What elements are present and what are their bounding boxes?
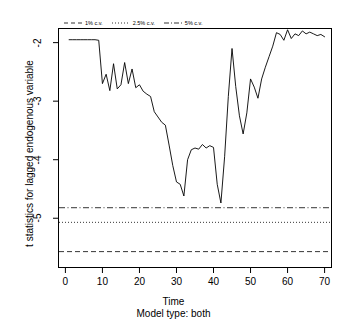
y-tick-label: -5 bbox=[33, 208, 43, 228]
legend-item-1pct: 1% c.v. bbox=[64, 20, 103, 26]
legend-label-5pct: 5% c.v. bbox=[185, 20, 203, 26]
legend-label-1pct: 1% c.v. bbox=[85, 20, 103, 26]
x-tick-label: 60 bbox=[276, 277, 300, 287]
x-tick-label: 70 bbox=[313, 277, 337, 287]
x-tick-label: 50 bbox=[239, 277, 263, 287]
chart-container: 1% c.v. 2.5% c.v. 5% c.v. t statistics f… bbox=[0, 0, 347, 335]
y-tick-label: -3 bbox=[33, 91, 43, 111]
x-tick-label: 30 bbox=[164, 277, 188, 287]
legend-item-5pct: 5% c.v. bbox=[164, 20, 203, 26]
y-tick-label: -2 bbox=[33, 33, 43, 53]
chart-subtitle: Model type: both bbox=[0, 308, 347, 319]
x-tick-label: 0 bbox=[53, 277, 77, 287]
plot-area bbox=[58, 28, 332, 268]
y-tick-label: -4 bbox=[33, 150, 43, 170]
x-tick-label: 10 bbox=[90, 277, 114, 287]
legend-label-2_5pct: 2.5% c.v. bbox=[133, 20, 155, 26]
x-tick-label: 20 bbox=[127, 277, 151, 287]
chart-legend: 1% c.v. 2.5% c.v. 5% c.v. bbox=[64, 17, 203, 29]
x-tick-label: 40 bbox=[202, 277, 226, 287]
legend-item-2_5pct: 2.5% c.v. bbox=[112, 20, 155, 26]
legend-key-dashdot-icon bbox=[164, 20, 182, 26]
legend-key-dashed-icon bbox=[64, 20, 82, 26]
legend-key-dotted-icon bbox=[112, 20, 130, 26]
x-axis-title: Time bbox=[0, 296, 347, 307]
